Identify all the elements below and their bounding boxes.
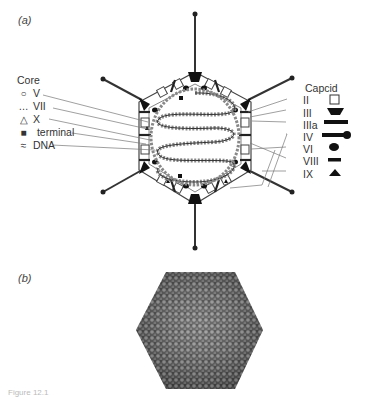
short-bar-icon: [328, 158, 341, 162]
capsid-legend-title: Capcid: [305, 82, 338, 94]
core-legend-item: … VII: [17, 100, 46, 113]
figure-caption: Figure 12.1: [8, 388, 48, 397]
capsid-legend-item: VI: [303, 143, 313, 155]
triangle-icon: [329, 169, 341, 176]
trapezoid-icon: [327, 108, 344, 115]
core-legend-item: ≈ DNA: [17, 139, 55, 152]
panel-b-label: (b): [18, 272, 31, 284]
filled-square-icon: ■: [17, 127, 30, 139]
core-legend-item: ○ V: [17, 87, 40, 100]
capsid-legend-item: VIII: [303, 155, 319, 167]
core-legend-item: ■ terminal: [17, 126, 74, 139]
ellipse-icon: [329, 143, 339, 151]
bar-icon: [324, 120, 348, 124]
dna-wave-icon: ≈: [17, 140, 30, 152]
capsid-legend-symbols: [322, 95, 351, 176]
capsid-legend-item: IV: [303, 131, 313, 143]
open-square-icon: [330, 95, 339, 104]
core-leader-lines: [43, 95, 155, 150]
circle-icon: ○: [17, 88, 30, 100]
fiber-knob-icon: [322, 133, 346, 137]
core-legend-title: Core: [17, 74, 40, 86]
capsid-legend-item: III: [303, 107, 312, 119]
core-legend-item: △ X: [17, 113, 40, 126]
capsid-legend-item: IIIa: [303, 119, 318, 131]
triangle-outline-icon: △: [17, 114, 30, 126]
dots-icon: …: [17, 101, 30, 113]
capsid-legend-item: II: [303, 94, 309, 106]
capsid-legend-item: IX: [303, 168, 313, 180]
